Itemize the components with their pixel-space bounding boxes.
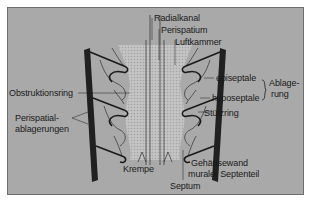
perispatium-region bbox=[118, 45, 192, 160]
label-obstruktionsring: Obstruktionsring bbox=[9, 88, 73, 98]
label-gehaeusewand: Gehäusewand bbox=[191, 158, 248, 168]
label-luftkammer: Luftkammer bbox=[175, 37, 222, 47]
label-ablagerung-line1: Ablage- bbox=[269, 78, 299, 88]
septum-cross-section-drawing bbox=[0, 0, 309, 201]
label-radialkanal: Radialkanal bbox=[154, 13, 200, 23]
label-ablagerung-line2: rung bbox=[271, 89, 289, 99]
left-wall bbox=[84, 48, 98, 182]
label-stuetzring: Stützring bbox=[204, 108, 239, 118]
label-krempe: Krempe bbox=[123, 164, 154, 174]
ablagerung-brace bbox=[262, 80, 266, 100]
label-septum: Septum bbox=[170, 181, 200, 191]
label-perispatial-line2: ablagerungen bbox=[15, 124, 69, 134]
label-perispatium: Perispatium bbox=[161, 25, 207, 35]
label-episeptale: episeptale bbox=[216, 73, 256, 83]
label-hyposeptale: hyposeptale bbox=[212, 93, 259, 103]
label-muraler-septenteil: muraler Septenteil bbox=[188, 169, 259, 179]
label-perispatial-line1: Perispatial- bbox=[15, 113, 59, 123]
